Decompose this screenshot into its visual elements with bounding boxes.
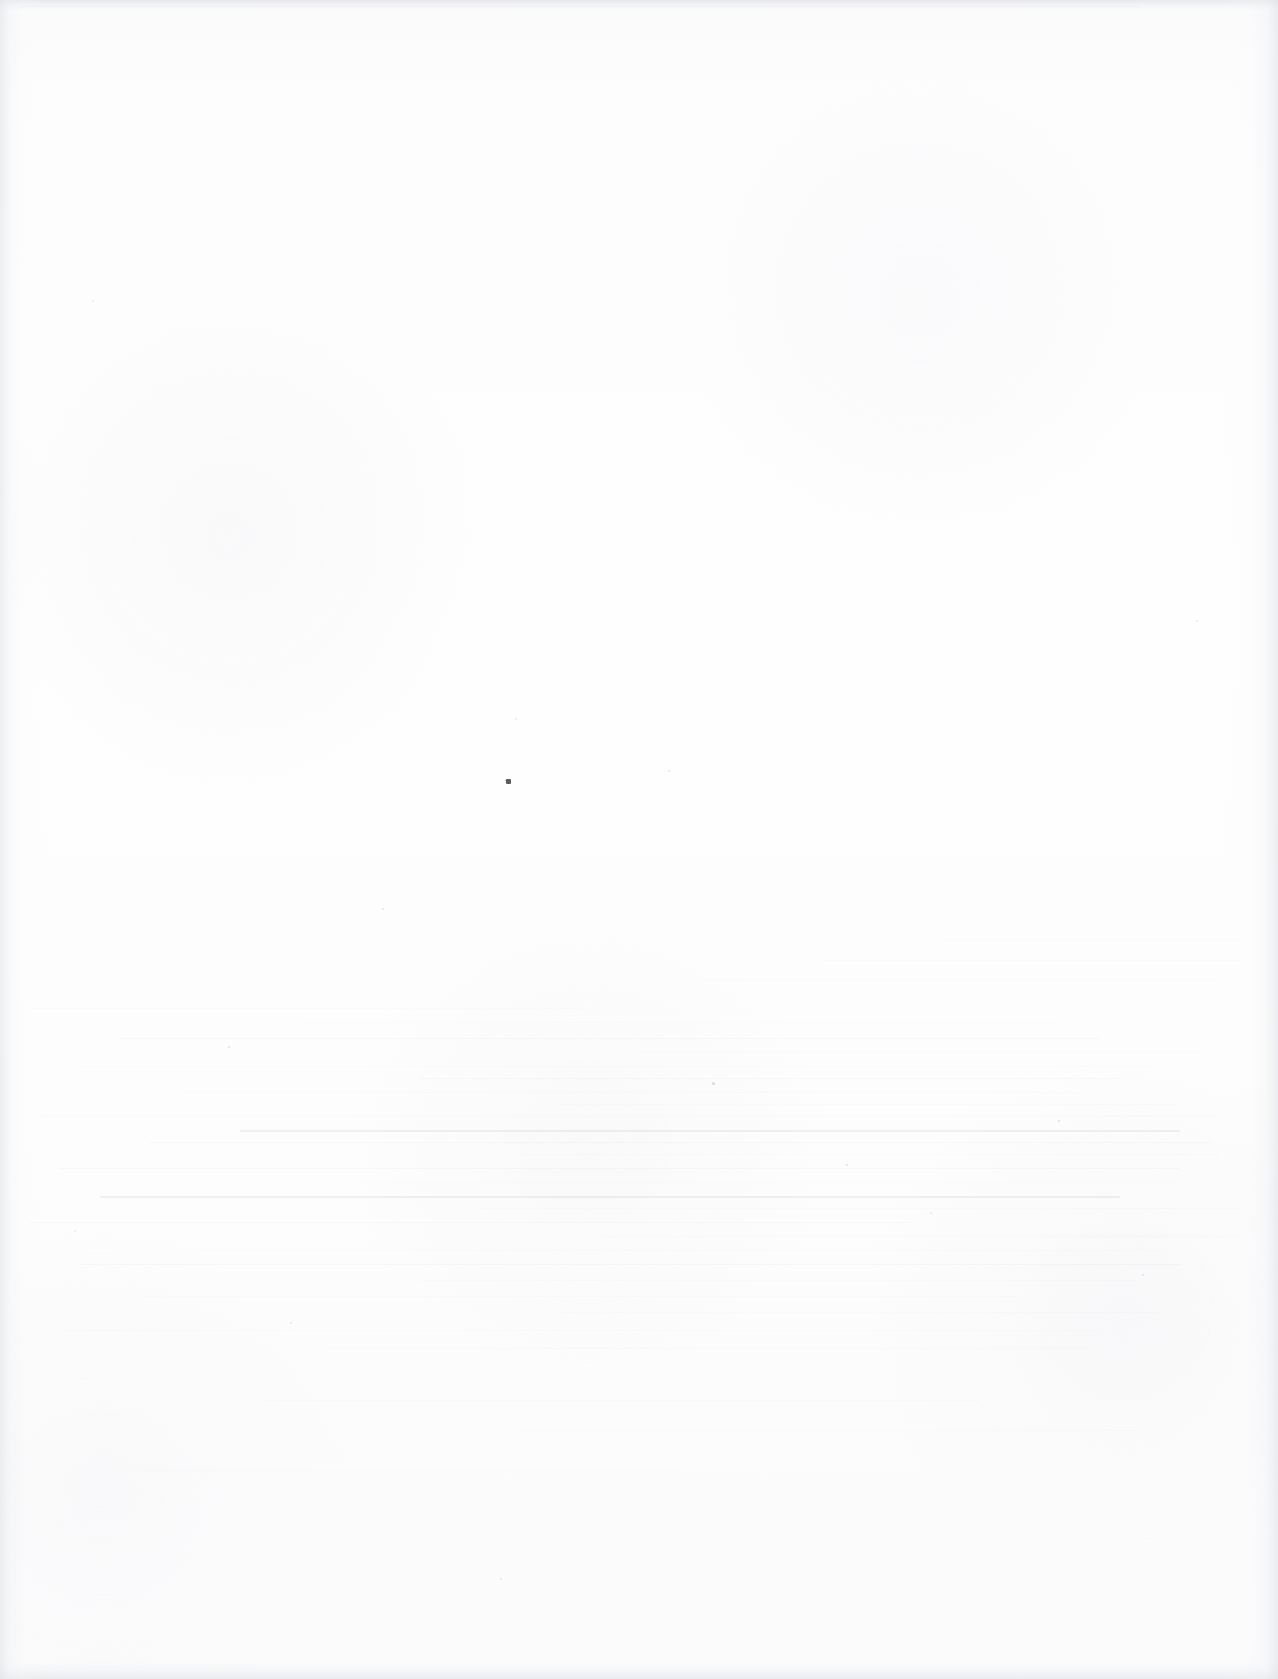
page-content-area: [0, 0, 1278, 1679]
scanned-page: [0, 0, 1278, 1679]
